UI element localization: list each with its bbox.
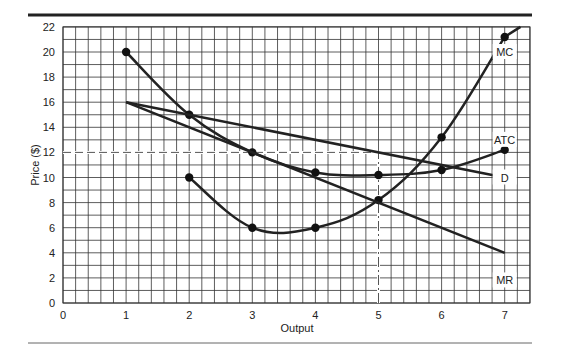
y-tick: 16	[43, 96, 55, 108]
curve-label-mc: MC	[496, 46, 513, 58]
x-tick: 4	[312, 309, 318, 321]
y-tick: 8	[49, 197, 55, 209]
y-tick: 6	[49, 222, 55, 234]
x-tick: 2	[186, 309, 192, 321]
x-axis-label: Output	[280, 322, 313, 334]
y-tick: 12	[43, 146, 55, 158]
y-tick: 22	[43, 21, 55, 33]
x-tick: 3	[249, 309, 255, 321]
curve-label-d: D	[501, 172, 509, 184]
y-tick: 20	[43, 46, 55, 58]
curve-label-mr: MR	[496, 274, 513, 286]
y-tick: 18	[43, 71, 55, 83]
y-tick: 4	[49, 247, 55, 259]
series-mr: MR	[126, 102, 517, 287]
x-tick: 5	[375, 309, 381, 321]
x-tick: 7	[502, 309, 508, 321]
y-axis-ticks: 0246810121416182022	[43, 21, 55, 309]
y-axis-label: Price ($)	[29, 144, 41, 186]
y-tick: 10	[43, 172, 55, 184]
curve-label-atc: ATC	[494, 134, 515, 146]
y-tick: 14	[43, 121, 55, 133]
y-tick: 0	[49, 297, 55, 309]
x-tick: 6	[439, 309, 445, 321]
x-axis-ticks: 01234567	[60, 309, 508, 321]
data-series: MCATCDMR	[122, 27, 521, 288]
x-tick: 1	[123, 309, 129, 321]
x-tick: 0	[60, 309, 66, 321]
series-mc: MC	[185, 27, 520, 233]
y-tick: 2	[49, 272, 55, 284]
cost-revenue-chart: MCATCDMR 0246810121416182022 01234567 Ou…	[0, 0, 561, 356]
